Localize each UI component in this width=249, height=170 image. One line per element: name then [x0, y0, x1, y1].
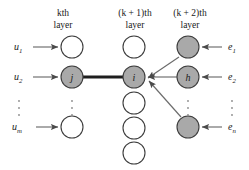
network-diagram: kth layer (k + 1)th layer (k + 2)th laye…	[0, 0, 249, 170]
output-label-e1-sub: 1	[232, 47, 235, 54]
kp2-node-h-label: h	[186, 72, 191, 83]
output-ellipsis-dot-3	[231, 114, 233, 116]
input-label-u2: u2	[14, 71, 23, 84]
kp1-node-4[interactable]	[123, 117, 145, 139]
input-label-u2-sub: 2	[19, 77, 23, 84]
layer-k-title-line1: kth	[57, 8, 69, 18]
input-label-um-sub: m	[17, 127, 22, 134]
input-label-um: um	[12, 121, 22, 134]
output-ellipsis-dot-2	[231, 107, 233, 109]
kp1-node-5[interactable]	[123, 142, 145, 164]
layer-k-plus-1-title-line1: (k + 1)th	[118, 8, 152, 19]
layer-k-plus-1-nodes: i	[123, 36, 145, 164]
layer-k-plus-2-title-line2: layer	[181, 20, 201, 30]
edge-kp2-1-to-i	[148, 57, 179, 78]
layer-k-plus-2-nodes: h	[177, 36, 199, 138]
kp1-node-1[interactable]	[123, 36, 145, 58]
input-ellipsis-dot-2	[18, 107, 20, 109]
layer-k-plus-2-title-line1: (k + 2)th	[173, 8, 207, 19]
output-arrows	[202, 47, 222, 127]
kp2-layer-ellipsis-dot-3	[187, 114, 189, 116]
diagram-canvas: kth layer (k + 1)th layer (k + 2)th laye…	[0, 0, 249, 170]
input-ellipsis-dot-1	[18, 100, 20, 102]
output-label-e2-sub: 2	[232, 77, 236, 84]
kp1-node-i-label: i	[133, 72, 136, 83]
k-layer-ellipsis-dot-3	[71, 114, 73, 116]
kp2-layer-ellipsis-dot-2	[187, 107, 189, 109]
k-layer-ellipsis-dot-2	[71, 107, 73, 109]
kp2-node-n[interactable]	[177, 116, 199, 138]
k-layer-ellipsis-dot-1	[71, 100, 73, 102]
input-labels: u1 u2 um	[12, 41, 23, 134]
input-label-u1: u1	[14, 41, 22, 54]
output-ellipsis-dot-1	[231, 100, 233, 102]
output-label-en: en	[228, 121, 236, 134]
k-node-m[interactable]	[61, 116, 83, 138]
output-labels: e1 e2 en	[228, 41, 236, 134]
output-label-e2: e2	[228, 71, 236, 84]
output-label-e1: e1	[228, 41, 236, 54]
input-label-u1-sub: 1	[19, 47, 22, 54]
layer-k-plus-1-title-line2: layer	[126, 20, 146, 30]
input-ellipsis-dot-3	[18, 114, 20, 116]
layer-k-nodes: j	[61, 36, 83, 138]
input-arrows	[33, 47, 58, 127]
k-node-1[interactable]	[61, 36, 83, 58]
edge-kp2-n-to-i	[149, 81, 181, 117]
kp1-node-3[interactable]	[123, 92, 145, 114]
kp2-layer-ellipsis-dot-1	[187, 100, 189, 102]
kp2-node-1[interactable]	[177, 36, 199, 58]
output-label-en-sub: n	[232, 127, 236, 134]
backprop-edges	[148, 57, 181, 117]
layer-headers: kth layer (k + 1)th layer (k + 2)th laye…	[54, 8, 207, 30]
layer-k-title-line2: layer	[54, 20, 74, 30]
